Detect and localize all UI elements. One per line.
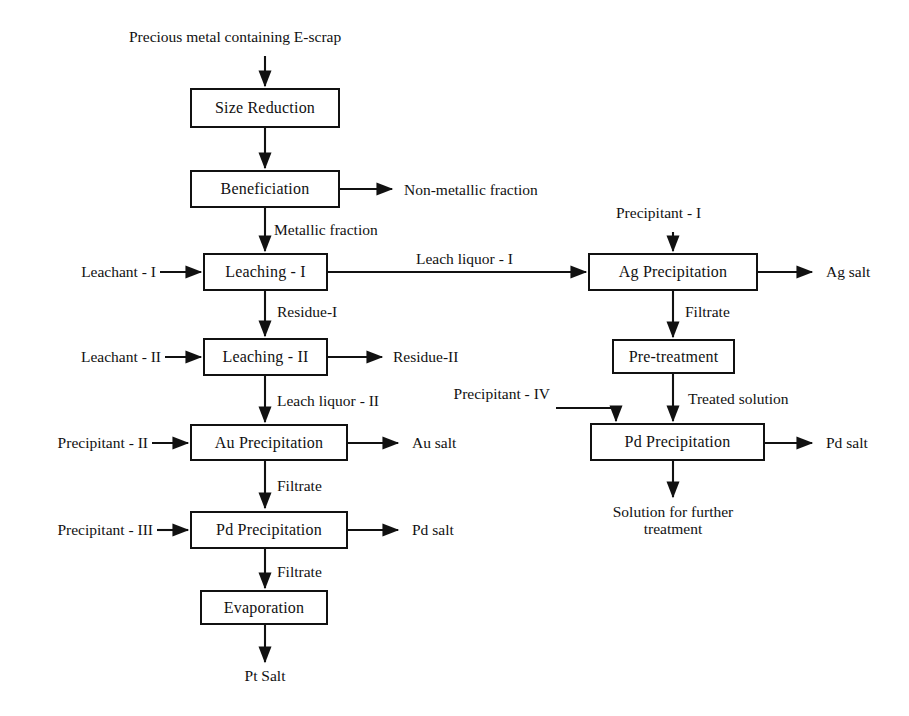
label-pd-salt-right: Pd salt (826, 434, 868, 451)
label-residue-2: Residue-II (393, 348, 458, 365)
edge-precipitant-4-to-pd-precipitation (556, 408, 616, 421)
node-beneficiation[interactable]: Beneficiation (190, 170, 340, 208)
label-residue-1: Residue-I (277, 303, 337, 320)
node-pre-treatment-label: Pre-treatment (629, 349, 719, 365)
label-leachant-2: Leachant - II (40, 348, 161, 365)
node-leaching-2[interactable]: Leaching - II (203, 338, 328, 376)
node-pre-treatment[interactable]: Pre-treatment (612, 339, 735, 374)
label-treated-solution: Treated solution (688, 390, 789, 407)
label-leachant-1: Leachant - I (40, 263, 156, 280)
label-metallic-fraction: Metallic fraction (274, 221, 378, 238)
label-solution-line-1: Solution for further (613, 503, 734, 520)
node-size-reduction-label: Size Reduction (215, 100, 315, 116)
node-leaching-1-label: Leaching - I (225, 264, 306, 280)
node-pd-precipitation-right[interactable]: Pd Precipitation (590, 423, 765, 461)
node-ag-precipitation[interactable]: Ag Precipitation (588, 253, 758, 291)
label-pd-salt-left: Pd salt (412, 521, 454, 538)
node-evaporation[interactable]: Evaporation (200, 590, 328, 625)
label-au-salt: Au salt (412, 434, 456, 451)
label-leach-liquor-1: Leach liquor - I (416, 250, 513, 267)
node-au-precipitation[interactable]: Au Precipitation (190, 424, 348, 461)
label-filtrate-au: Filtrate (277, 477, 322, 494)
node-beneficiation-label: Beneficiation (221, 181, 310, 197)
node-pd-precipitation-left-label: Pd Precipitation (216, 522, 322, 538)
node-leaching-1[interactable]: Leaching - I (203, 253, 328, 291)
label-solution-for-further-treatment: Solution for further treatment (585, 503, 761, 538)
node-evaporation-label: Evaporation (224, 600, 304, 616)
node-au-precipitation-label: Au Precipitation (215, 435, 324, 451)
label-precipitant-2: Precipitant - II (12, 434, 148, 451)
label-filtrate-pd: Filtrate (277, 563, 322, 580)
label-precipitant-3: Precipitant - III (12, 521, 153, 538)
node-pd-precipitation-right-label: Pd Precipitation (625, 434, 731, 450)
label-precipitant-4: Precipitant - IV (400, 385, 550, 402)
label-ag-salt: Ag salt (826, 263, 870, 280)
label-precipitant-1: Precipitant - I (616, 204, 701, 221)
label-filtrate-ag: Filtrate (685, 303, 730, 320)
label-non-metallic-fraction: Non-metallic fraction (404, 181, 538, 198)
label-leach-liquor-2: Leach liquor - II (277, 392, 379, 409)
node-size-reduction[interactable]: Size Reduction (190, 88, 340, 128)
node-leaching-2-label: Leaching - II (222, 349, 308, 365)
flowchart-canvas: Size Reduction Beneficiation Leaching - … (0, 0, 909, 716)
node-ag-precipitation-label: Ag Precipitation (619, 264, 728, 280)
label-pt-salt: Pt Salt (215, 667, 315, 684)
node-pd-precipitation-left[interactable]: Pd Precipitation (190, 511, 348, 549)
label-solution-line-2: treatment (644, 520, 703, 537)
label-feed: Precious metal containing E-scrap (129, 28, 341, 45)
